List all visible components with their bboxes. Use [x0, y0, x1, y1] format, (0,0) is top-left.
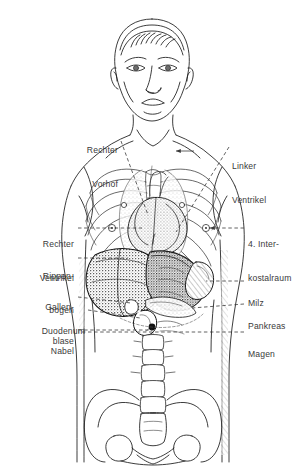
label-linker-ventrikel-line-0: Linker: [232, 161, 266, 172]
label-magen: Magen: [248, 326, 275, 372]
spine: [131, 335, 175, 414]
label-rechter-vorhof-line-0: Rechter: [87, 145, 118, 156]
label-magen-line-0: Magen: [248, 349, 275, 360]
head-outline: [111, 19, 194, 121]
label-interkostalraum-line-0: 4. Inter-: [248, 239, 292, 250]
label-nabel-line-0: Nabel: [51, 346, 74, 357]
label-nabel: Nabel: [51, 323, 74, 369]
label-linker-ventrikel: Linker Ventrikel: [232, 138, 266, 218]
label-rechter-vorhof: Rechter Vorhof: [87, 122, 118, 202]
leader-pankreas: [192, 304, 244, 308]
label-rechter-vorhof-line-1: Vorhof: [87, 179, 118, 190]
cropped-caption: [0, 0, 307, 9]
label-linker-ventrikel-line-1: Ventrikel: [232, 195, 266, 206]
